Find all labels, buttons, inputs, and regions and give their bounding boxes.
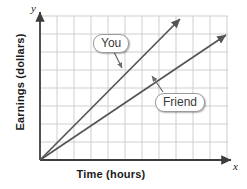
earnings-vs-time-graph: You Friend Time (hours) Earnings (dollar… [0, 0, 247, 189]
x-axis-variable-label: x [233, 160, 238, 172]
callout-pointers [113, 50, 163, 92]
y-axis-title: Earnings (dollars) [14, 7, 26, 157]
x-axis-title: Time (hours) [0, 168, 222, 180]
grid-lines [40, 16, 228, 160]
callout-label-friend: Friend [155, 93, 205, 112]
graph-canvas [0, 0, 247, 189]
callout-label-you: You [93, 34, 129, 53]
data-lines [40, 19, 226, 160]
y-axis-variable-label: y [31, 2, 36, 14]
